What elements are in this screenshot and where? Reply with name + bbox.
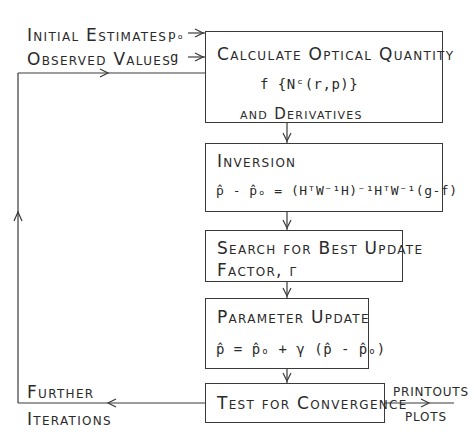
printouts-label: PRINTOUTS (393, 386, 469, 398)
inversion-title: Inversion (217, 153, 296, 170)
update-formula: p̂ = p̂ₒ + γ (p̂ - p̂ₒ) (216, 342, 386, 356)
plots-label: PLOTS (405, 411, 447, 423)
iterations-label: Iterations (27, 411, 112, 428)
initial-estimates-symbol: pₒ (168, 28, 185, 41)
test-title: Test for Convergence (217, 395, 408, 412)
initial-estimates-label: Initial Estimates (27, 27, 167, 44)
update-title: Parameter Update (217, 309, 370, 326)
inversion-formula: p̂ - p̂ₒ = (HᵀW⁻¹H)⁻¹HᵀW⁻¹(g-f) (216, 184, 457, 197)
further-label: Further (27, 384, 94, 401)
calculate-formula: f {Nᶜ(r,p)} (260, 77, 358, 91)
calculate-subtitle: and Derivatives (240, 107, 363, 122)
search-title-line2: Factor, γ (217, 262, 297, 279)
calculate-title: Calculate Optical Quantity (217, 46, 454, 63)
search-title-line1: Search for Best Update (217, 240, 423, 257)
observed-values-symbol: g (170, 50, 179, 64)
observed-values-label: Observed Values (27, 51, 171, 68)
